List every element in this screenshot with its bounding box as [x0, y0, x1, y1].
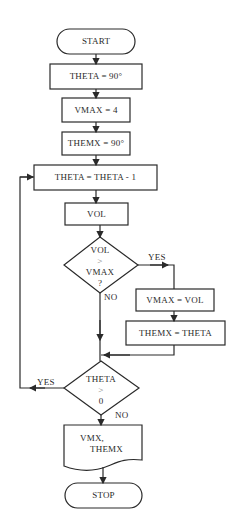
start-label: START — [57, 36, 135, 47]
init-theta-label: THETA = 90° — [50, 71, 142, 82]
output-line1: VMX, — [80, 433, 104, 444]
decision2-line3: 0 — [71, 396, 131, 407]
decrement-label: THETA = THETA - 1 — [34, 172, 157, 183]
decision2-no-label: NO — [115, 410, 128, 421]
decision1-yes-label: YES — [148, 252, 166, 263]
decision1-no-label: NO — [104, 292, 117, 303]
stop-label: STOP — [65, 490, 142, 501]
set-vmax-label: VMAX = VOL — [136, 295, 214, 306]
vol-label: VOL — [65, 209, 128, 220]
decision1-line4: ? — [70, 278, 130, 289]
init-themx-label: THEMX = 90° — [62, 138, 130, 149]
init-vmax-label: VMAX = 4 — [62, 105, 130, 116]
decision1-line3: VMAX — [70, 267, 130, 278]
decision1-line1: VOL — [70, 245, 130, 256]
output-line2: THEMX — [90, 444, 123, 455]
decision2-line2: > — [71, 385, 131, 396]
decision2-yes-label: YES — [37, 377, 55, 388]
decision1-line2: > — [70, 256, 130, 267]
set-themx-label: THEMX = THETA — [126, 328, 225, 339]
decision2-line1: THETA — [71, 374, 131, 385]
